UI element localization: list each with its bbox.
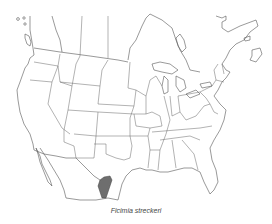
range-map: [0, 0, 272, 205]
species-range-area: [98, 176, 112, 198]
map-caption: Ficimia streckeri: [0, 207, 272, 214]
coastline-and-borders: [17, 14, 262, 200]
